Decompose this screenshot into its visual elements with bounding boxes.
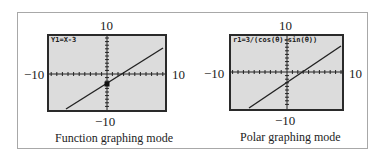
caption: Polar graphing mode bbox=[240, 131, 341, 143]
trace-cursor bbox=[105, 82, 110, 87]
plot-line bbox=[249, 46, 341, 108]
plot-line bbox=[66, 48, 163, 109]
xmin-label: −10 bbox=[204, 67, 224, 80]
equation-label: Y1=X-3 bbox=[51, 37, 76, 44]
ymin-label: −10 bbox=[95, 115, 115, 128]
calculator-screen-function: Y1=X-3 bbox=[47, 34, 167, 112]
xmax-label: 10 bbox=[172, 68, 185, 81]
ymin-label: −10 bbox=[275, 114, 295, 127]
xmin-label: −10 bbox=[24, 68, 44, 81]
ymax-label: 10 bbox=[100, 19, 113, 32]
calculator-screen-polar: r1=3/(cos(θ)-sin(θ)) bbox=[229, 34, 344, 111]
ymax-label: 10 bbox=[279, 19, 292, 32]
xmax-label: 10 bbox=[349, 67, 362, 80]
figure-frame: 10 −10 10 −10 bbox=[17, 12, 368, 149]
equation-label: r1=3/(cos(θ)-sin(θ)) bbox=[233, 37, 317, 44]
function-graph bbox=[49, 36, 165, 110]
polar-graph bbox=[231, 36, 342, 109]
caption: Function graphing mode bbox=[55, 132, 173, 144]
